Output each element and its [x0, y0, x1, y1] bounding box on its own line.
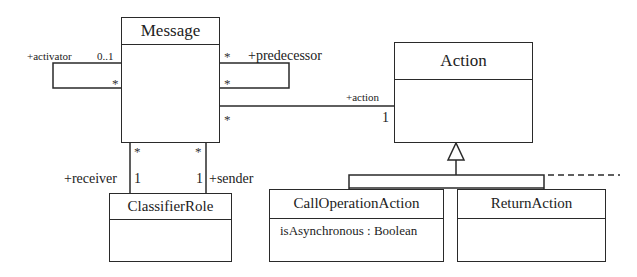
- multiplicity-sender-role: 1: [196, 172, 203, 186]
- role-label-predecessor: +predecessor: [248, 49, 322, 63]
- role-label-action: +action: [346, 92, 379, 103]
- class-name: ReturnAction: [458, 190, 605, 219]
- multiplicity-receiver-role: 1: [134, 172, 141, 186]
- class-name: Action: [395, 43, 532, 80]
- role-label-activator: +activator: [27, 51, 72, 62]
- role-label-sender: +sender: [209, 172, 253, 186]
- multiplicity-predecessor-target: *: [224, 77, 231, 90]
- activator-loop: [53, 63, 121, 88]
- class-action[interactable]: Action: [394, 42, 533, 143]
- class-classifier-role[interactable]: ClassifierRole: [109, 193, 232, 262]
- class-attribute: isAsynchronous : Boolean: [270, 219, 443, 239]
- multiplicity-receiver-message: *: [134, 145, 141, 158]
- multiplicity-activator-target: *: [112, 77, 119, 90]
- class-name: Message: [122, 18, 219, 45]
- class-return-action[interactable]: ReturnAction: [457, 189, 606, 262]
- multiplicity-predecessor-source: *: [224, 50, 231, 63]
- multiplicity-sender-message: *: [195, 145, 202, 158]
- class-message[interactable]: Message: [121, 17, 220, 143]
- generalization-bar: [349, 175, 544, 189]
- class-name: ClassifierRole: [110, 194, 231, 220]
- class-name: CallOperationAction: [270, 190, 443, 219]
- class-call-operation-action[interactable]: CallOperationAction isAsynchronous : Boo…: [269, 189, 444, 262]
- multiplicity-action-target: 1: [382, 111, 389, 125]
- multiplicity-action-message: *: [224, 113, 231, 126]
- role-label-receiver: +receiver: [64, 172, 117, 186]
- generalization-arrow-icon: [448, 143, 464, 160]
- multiplicity-activator-source: 0..1: [97, 51, 114, 62]
